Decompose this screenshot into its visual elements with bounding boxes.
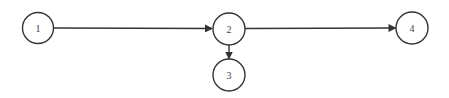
node-2: 2 bbox=[213, 13, 245, 45]
node-1: 1 bbox=[23, 13, 54, 44]
node-3-label: 3 bbox=[227, 70, 232, 81]
graph-canvas: 1 2 3 4 bbox=[0, 0, 449, 98]
node-3: 3 bbox=[213, 59, 245, 91]
node-1-label: 1 bbox=[36, 23, 41, 34]
edge-2-to-4 bbox=[245, 28, 396, 29]
edge-1-to-2 bbox=[54, 28, 213, 29]
node-4: 4 bbox=[396, 12, 428, 44]
node-2-label: 2 bbox=[227, 24, 232, 35]
node-4-label: 4 bbox=[410, 23, 415, 34]
